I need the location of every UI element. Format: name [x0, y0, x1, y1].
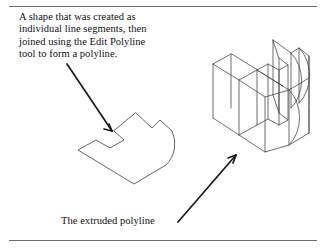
leader-line-to-solid	[178, 155, 236, 222]
leader-line-to-profile	[67, 64, 112, 131]
3d-extruded-solid	[213, 40, 310, 152]
figure-artwork	[0, 0, 326, 251]
2d-polyline-profile	[78, 113, 175, 184]
figure-container: A shape that was created as individual l…	[0, 0, 326, 251]
